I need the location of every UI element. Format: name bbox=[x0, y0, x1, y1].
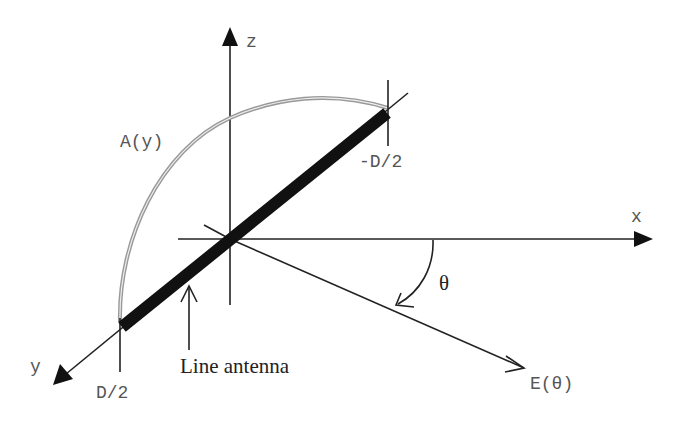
antenna-pointer bbox=[181, 286, 197, 350]
bottom-end-label: D/2 bbox=[96, 383, 128, 403]
aperture-label: A(y) bbox=[120, 132, 163, 152]
x-axis-arrowhead-icon bbox=[634, 231, 653, 247]
z-axis-label: z bbox=[246, 32, 257, 52]
y-axis-arrowhead-icon bbox=[53, 364, 73, 385]
top-end-label: -D/2 bbox=[359, 152, 402, 172]
field-direction-line bbox=[230, 239, 524, 372]
y-axis-label: y bbox=[30, 357, 41, 377]
antenna-diagram: z x y A(y) -D/2 D/2 Line antenna θ E(θ) bbox=[0, 0, 686, 424]
x-axis bbox=[178, 231, 653, 247]
z-axis-arrowhead-icon bbox=[222, 27, 238, 46]
theta-label: θ bbox=[439, 271, 449, 295]
z-axis bbox=[222, 27, 238, 305]
field-label: E(θ) bbox=[530, 374, 573, 394]
theta-arc bbox=[396, 240, 433, 307]
antenna-label: Line antenna bbox=[180, 354, 290, 378]
x-axis-label: x bbox=[631, 207, 642, 227]
